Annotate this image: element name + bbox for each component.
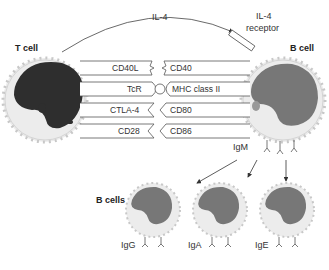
b-cell-igg-shape [126,183,180,247]
b-cells-label: B cells [96,196,125,205]
b-cell-iga-shape [193,183,247,247]
b-cell-label: B cell [290,44,314,53]
diagram-canvas [0,0,329,270]
molecule-cd28: CD28 [118,127,140,136]
molecule-cd80: CD80 [170,106,192,115]
molecule-cd86: CD86 [170,127,192,136]
molecule-mhc-class-ii: MHC class II [172,85,220,94]
molecule-cd40l: CD40L [112,64,138,73]
arrow-to-igg [197,160,237,183]
b-cell-ige-shape [260,183,314,247]
iga-label: IgA [188,241,202,250]
arrow-to-iga [248,160,257,177]
b-cell-shape [241,58,325,154]
il4-label: IL-4 [152,13,168,22]
molecule-tcr: TcR [127,85,142,94]
il4-receptor-label-2: receptor [246,24,279,33]
igm-label: IgM [233,143,248,152]
t-cell-shape [3,58,87,142]
igg-label: IgG [121,241,136,250]
molecule-cd40: CD40 [170,64,192,73]
ige-label: IgE [255,241,269,250]
il4-arrow [62,17,233,52]
antigen-peptide-shape [155,84,165,94]
molecule-ctla4: CTLA-4 [110,106,139,115]
t-cell-label: T cell [15,44,38,53]
il4-receptor-shape [229,30,255,51]
il4-receptor-label-1: IL-4 [256,12,272,21]
